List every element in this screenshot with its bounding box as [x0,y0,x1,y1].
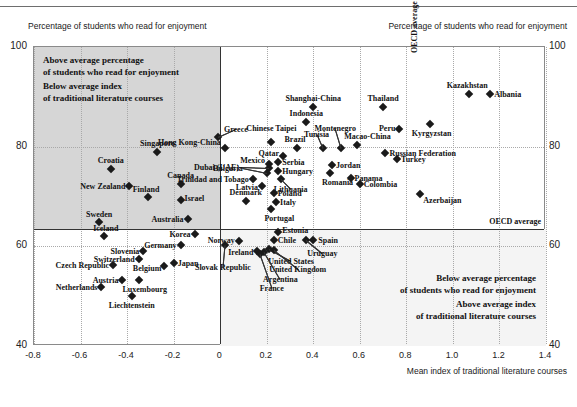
data-point-marker[interactable] [267,137,275,145]
oecd-average-vertical-line [220,47,221,344]
data-point-label: Albania [494,90,521,99]
data-point-label: Poland [278,189,302,198]
data-point-marker[interactable] [160,262,168,270]
data-point-marker[interactable] [267,205,275,213]
data-point-label: Portugal [264,213,294,222]
gridline-vertical [34,47,35,344]
ul-note-line-3: Below average index [43,81,179,93]
gridline-vertical [546,47,547,344]
data-point-label: United Kingdom [269,265,326,274]
lr-note-line-1: Below average percentage [400,273,536,285]
data-point-marker[interactable] [486,90,494,98]
data-point-marker[interactable] [302,118,310,126]
top-divider-rule [0,6,577,7]
gridline-horizontal [34,147,544,148]
x-axis-tick: -0.6 [60,350,100,360]
x-axis-tick: 1.0 [432,350,472,360]
data-point-label: Kazakhstan [447,81,488,90]
data-point-marker[interactable] [272,198,280,206]
x-axis-tick: -0.4 [106,350,146,360]
data-point-label: Bulgaria [213,163,243,172]
y-axis-tick-left: 60 [1,239,27,250]
x-axis-tick: 0.8 [385,350,425,360]
data-point-marker[interactable] [379,103,387,111]
scatter-plot-area: OECD average OECD average Above average … [33,46,545,345]
y-axis-tick-right: 60 [549,239,575,250]
data-point-label: Indonesia [290,108,323,117]
data-point-label: Azerbaijan [423,196,461,205]
data-point-marker[interactable] [118,276,126,284]
ul-note-line-2: of students who read for enjoyment [43,67,179,79]
data-point-label: Estonia [282,226,308,235]
data-point-label: Jordan [336,161,360,170]
data-point-label: Korea [169,229,190,238]
data-point-marker[interactable] [176,241,184,249]
data-point-label: Chile [278,235,296,244]
data-point-label: France [260,283,284,292]
data-point-label: Hungary [282,166,313,175]
data-point-label: Serbia [282,157,304,166]
data-point-marker[interactable] [190,230,198,238]
ul-note-line-1: Above average percentage [43,55,179,67]
gridline-vertical [313,47,314,344]
data-point-label: Luxembourg [122,285,166,294]
data-point-label: Hong Kong-China [158,137,221,146]
data-point-marker[interactable] [465,90,473,98]
data-point-label: Italy [280,198,296,207]
data-point-marker[interactable] [395,125,403,133]
data-point-marker[interactable] [325,168,333,176]
oecd-average-horizontal-label: OECD average [489,217,541,226]
data-point-marker[interactable] [381,148,389,156]
x-axis-tick: -0.8 [13,350,53,360]
y-axis-tick-left: 40 [1,339,27,350]
data-point-label: Czech Republic [56,260,110,269]
data-point-label: Australia [152,214,184,223]
left-y-axis-caption: Percentage of students who read for enjo… [28,21,207,31]
y-axis-tick-left: 80 [1,140,27,151]
data-point-label: Germany [144,240,176,249]
data-point-marker[interactable] [100,232,108,240]
data-point-label: New Zealand [80,181,125,190]
data-point-label: Shanghai-China [285,93,341,102]
data-point-label: Slovak Republic [195,263,251,272]
lr-note-line-3: Above average index [400,299,536,311]
y-axis-tick-right: 40 [549,339,575,350]
data-point-label: Turkey [401,155,426,164]
lower-right-quadrant-note: Below average percentage of students who… [400,273,536,322]
data-point-label: Israel [185,194,205,203]
data-point-label: Denmark [230,188,262,197]
oecd-average-vertical-label-wrap: OECD average [222,49,223,50]
data-point-label: Kyrgyzstan [412,129,452,138]
data-point-label: Sweden [86,210,112,219]
y-axis-tick-right: 80 [549,140,575,151]
data-point-label: Croatia [98,156,124,165]
data-point-label: Spain [318,236,338,245]
chart-root: Percentage of students who read for enjo… [0,0,577,407]
data-point-label: Ireland [228,248,253,257]
x-axis-tick: -0.2 [153,350,193,360]
data-point-label: Finland [133,185,160,194]
data-point-label: Thailand [368,93,399,102]
gridline-vertical [360,47,361,344]
x-axis-tick: 0.4 [292,350,332,360]
data-point-marker[interactable] [425,120,433,128]
data-point-label: Belgium [133,264,161,273]
data-point-marker[interactable] [221,143,229,151]
data-point-label: Macao-China [344,132,391,141]
data-point-label: Tunisia [304,130,329,139]
data-point-label: Brazil [285,135,306,144]
data-point-marker[interactable] [242,197,250,205]
data-point-label: Mexico [240,156,265,165]
data-point-marker[interactable] [274,166,282,174]
data-point-label: Chinese Taipei [246,123,296,132]
lr-note-line-4: of traditional literature courses [400,311,536,323]
y-axis-tick-right: 100 [549,40,575,51]
data-point-marker[interactable] [134,276,142,284]
ul-note-line-4: of traditional literature courses [43,93,179,105]
data-point-marker[interactable] [293,144,301,152]
data-point-label: Liechtenstein [109,300,155,309]
x-axis-tick: 1.2 [478,350,518,360]
data-point-marker[interactable] [169,259,177,267]
x-axis-tick: 0 [199,350,239,360]
data-point-label: Iceland [93,224,118,233]
